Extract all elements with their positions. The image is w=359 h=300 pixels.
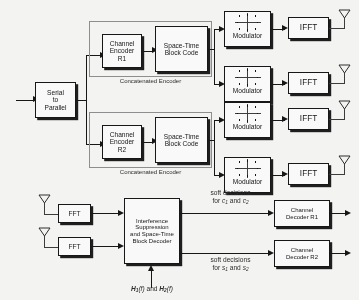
soft-decisions-bottom-line1: soft decisions — [188, 256, 273, 264]
constellation-icon-4 — [235, 159, 261, 179]
ifft-3-block: IFFT — [288, 108, 329, 130]
antenna-icon-tx-2 — [338, 64, 351, 74]
modulator-4-label: Modulator — [233, 178, 262, 185]
constellation-icon-2 — [235, 68, 261, 88]
channel-encoder-r1-line1: Channel — [110, 40, 135, 47]
soft-decisions-top-line — [180, 213, 272, 214]
channel-decoder-r2-line2: Decoder R2 — [286, 254, 318, 261]
soft-decisions-top-prefix: for — [212, 197, 220, 204]
space-time-block-code-2: Space-Time Block Code — [155, 117, 208, 163]
constellation-icon-1 — [235, 13, 261, 33]
antenna-icon-tx-1 — [338, 9, 351, 19]
decoder-r1-out-arrowhead — [345, 210, 351, 216]
decoder-line4: Block Decoder — [130, 238, 174, 245]
modulator-3-label: Modulator — [233, 123, 262, 130]
stbc2-split-bus — [214, 120, 215, 176]
modulator-2-label: Modulator — [233, 87, 262, 94]
constellation-icon-3 — [235, 104, 261, 124]
fft-2-block: FFT — [58, 237, 91, 256]
soft-decisions-bottom-line — [180, 253, 272, 254]
soft-decisions-top-sym1-sub: 1 — [225, 200, 228, 205]
stbc1-line2: Block Code — [164, 49, 199, 56]
decoder-line3: and Space-Time — [130, 231, 174, 238]
channel-decoder-r1-block: Channel Decoder R1 — [274, 200, 330, 227]
soft-decisions-bottom-sym1-sub: 1 — [225, 267, 228, 272]
channel-encoder-r1-line2: Encoder — [110, 47, 135, 54]
ifft3-to-antenna-line — [329, 119, 345, 120]
fft-1-block: FFT — [58, 204, 91, 223]
rx-antenna2-to-fft — [44, 247, 59, 248]
antenna1-mast — [344, 18, 345, 29]
ifft-4-block: IFFT — [288, 163, 329, 185]
modulator-3-block: Modulator — [224, 102, 271, 138]
ifft-3-label: IFFT — [300, 114, 317, 123]
interference-suppression-decoder-block: Interference Suppression and Space-Time … — [124, 198, 180, 264]
ifft1-to-antenna-line — [329, 28, 345, 29]
soft-decisions-bottom-prefix: for — [212, 264, 220, 271]
modulator-1-block: Modulator — [224, 11, 271, 47]
ifft-4-label: IFFT — [300, 169, 317, 178]
channel-decoder-r1-line2: Decoder R1 — [286, 214, 318, 221]
channel-estimate-label: H1(f) and H2(f) — [106, 285, 198, 294]
channel-encoder-r2-line3: R2 — [110, 146, 135, 153]
ifft2-to-antenna-line — [329, 83, 345, 84]
h2-arg: (f) — [167, 285, 173, 292]
soft-decisions-top-line1: soft decisions — [188, 189, 273, 197]
stbc2-line1: Space-Time — [164, 133, 199, 140]
decoder-line2: Suppression — [130, 224, 174, 231]
antenna-icon-tx-4 — [338, 155, 351, 165]
modulator-4-block: Modulator — [224, 157, 271, 193]
soft-decisions-top-joiner: and — [230, 197, 241, 204]
channel-decoder-r2-line1: Channel — [286, 247, 318, 254]
modulator-2-block: Modulator — [224, 66, 271, 102]
channel-encoder-r2-line1: Channel — [110, 131, 135, 138]
ifft-2-block: IFFT — [288, 72, 329, 94]
decoder-line1: Interference — [130, 218, 174, 225]
channel-estimate-joiner: and — [146, 285, 157, 292]
fft-1-label: FFT — [68, 210, 80, 217]
channel-encoder-r1-line3: R1 — [110, 55, 135, 62]
ifft-1-block: IFFT — [288, 17, 329, 39]
antenna3-mast — [344, 109, 345, 120]
concatenated-encoder-label-2: Concatenated Encoder — [89, 169, 212, 176]
decoder-r2-out-arrowhead — [345, 250, 351, 256]
soft-decisions-bottom-label: soft decisions for s1 and s2 — [188, 256, 273, 273]
space-time-block-code-1: Space-Time Block Code — [155, 26, 208, 72]
ifft-2-label: IFFT — [300, 78, 317, 87]
concatenated-encoder-label-1: Concatenated Encoder — [89, 78, 212, 85]
h1-arg: (f) — [138, 285, 144, 292]
channel-encoder-r1-block: Channel Encoder R1 — [102, 34, 142, 68]
soft-decisions-bottom-joiner: and — [230, 264, 241, 271]
channel-decoder-r1-line1: Channel — [286, 207, 318, 214]
stbc1-line1: Space-Time — [164, 42, 199, 49]
serial-to-parallel-block: Serial to Parallel — [35, 82, 76, 118]
channel-encoder-r2-line2: Encoder — [110, 138, 135, 145]
soft-decisions-top-label: soft decisions for c1 and c2 — [188, 189, 273, 206]
soft-decisions-top-sym2-sub: 2 — [246, 200, 249, 205]
serial-to-parallel-line3: Parallel — [45, 104, 67, 111]
ifft-1-label: IFFT — [300, 23, 317, 32]
channel-estimate-arrowhead — [148, 265, 154, 271]
antenna-icon-tx-3 — [338, 100, 351, 110]
modulator-1-label: Modulator — [233, 32, 262, 39]
serial-to-parallel-line1: Serial — [45, 89, 67, 96]
fft-2-label: FFT — [68, 243, 80, 250]
soft-decisions-bottom-sym2-sub: 2 — [246, 267, 249, 272]
channel-encoder-r2-block: Channel Encoder R2 — [102, 125, 142, 159]
antenna2-mast — [344, 73, 345, 84]
serial-to-parallel-line2: to — [45, 96, 67, 103]
block-diagram-canvas: Serial to Parallel Concatenated Encoder … — [0, 0, 359, 300]
ifft4-to-antenna-line — [329, 174, 345, 175]
stbc1-split-bus — [214, 29, 215, 85]
channel-decoder-r2-block: Channel Decoder R2 — [274, 240, 330, 267]
stbc2-line2: Block Code — [164, 140, 199, 147]
rx-antenna1-to-fft — [44, 214, 59, 215]
sp-split-bus — [86, 55, 87, 145]
antenna4-mast — [344, 164, 345, 175]
